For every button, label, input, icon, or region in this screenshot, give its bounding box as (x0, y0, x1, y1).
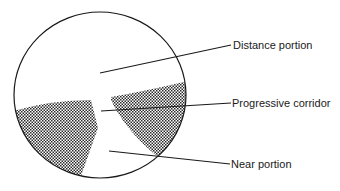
distance-portion-label: Distance portion (233, 39, 313, 51)
progressive-corridor-label: Progressive corridor (232, 97, 330, 109)
left-peripheral-zone (10, 100, 98, 178)
near-portion-label: Near portion (231, 158, 292, 170)
near-leader-line (109, 151, 230, 164)
distance-leader-line (100, 45, 231, 73)
